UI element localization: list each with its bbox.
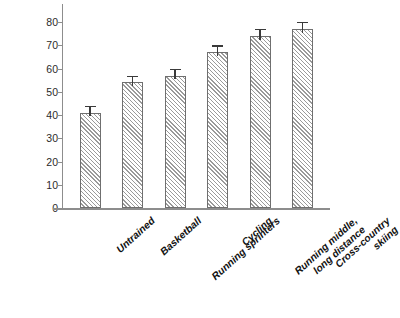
y-axis-tick-labels: 01020304050607080 [34, 0, 58, 318]
y-axis-tick-label: 50 [34, 87, 58, 98]
y-axis-tick-mark [57, 69, 62, 70]
y-axis-tick-mark [57, 162, 62, 163]
error-bar-cap [85, 106, 96, 107]
x-axis-line [53, 208, 330, 210]
error-bar-stem [259, 29, 260, 40]
bar [207, 52, 228, 208]
y-axis-line [62, 4, 63, 210]
error-bar-stem [174, 69, 175, 80]
bar [292, 29, 313, 208]
y-axis-tick-mark [57, 138, 62, 139]
bar [122, 82, 143, 208]
error-bar-cap [255, 29, 266, 30]
y-axis-tick-label: 70 [34, 40, 58, 51]
error-bar-stem [217, 45, 218, 56]
y-axis-tick-label: 10 [34, 180, 58, 191]
error-bar-stem [302, 22, 303, 33]
y-axis-tick-label: 60 [34, 63, 58, 74]
y-axis-tick-label: 80 [34, 17, 58, 28]
error-bar-cap [170, 69, 181, 70]
y-axis-tick-mark [57, 45, 62, 46]
y-axis-tick-mark [57, 92, 62, 93]
error-bar-cap [212, 45, 223, 46]
bar [80, 113, 101, 208]
error-bar-stem [132, 76, 133, 87]
y-axis-tick-label: 30 [34, 133, 58, 144]
y-axis-tick-mark [57, 22, 62, 23]
bar [250, 36, 271, 208]
x-axis-category-label: Basketball [158, 215, 204, 258]
error-bar-stem [89, 106, 90, 117]
y-axis-tick-label: 40 [34, 110, 58, 121]
x-axis-category-label: Untrained [114, 215, 157, 255]
y-axis-tick-mark [57, 185, 62, 186]
bar [165, 76, 186, 209]
plot-area [62, 4, 330, 210]
error-bar-cap [297, 22, 308, 23]
y-axis-tick-mark [57, 115, 62, 116]
error-bar-cap [127, 76, 138, 77]
y-axis-tick-mark [57, 208, 62, 209]
y-axis-tick-label: 20 [34, 156, 58, 167]
